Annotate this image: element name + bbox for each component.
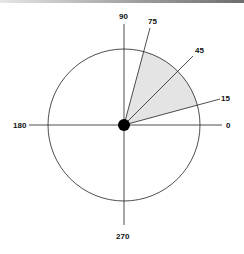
label-180-deg: 180	[13, 121, 27, 130]
label-75-deg: 75	[148, 17, 157, 26]
label-90-deg: 90	[119, 12, 128, 21]
label-45-deg: 45	[195, 46, 204, 55]
label-15-deg: 15	[221, 94, 230, 103]
polar-angle-diagram: 0 90 180 270 15 45 75	[0, 0, 244, 254]
label-270-deg: 270	[116, 232, 130, 241]
label-0-deg: 0	[226, 121, 231, 130]
center-point	[118, 119, 130, 131]
